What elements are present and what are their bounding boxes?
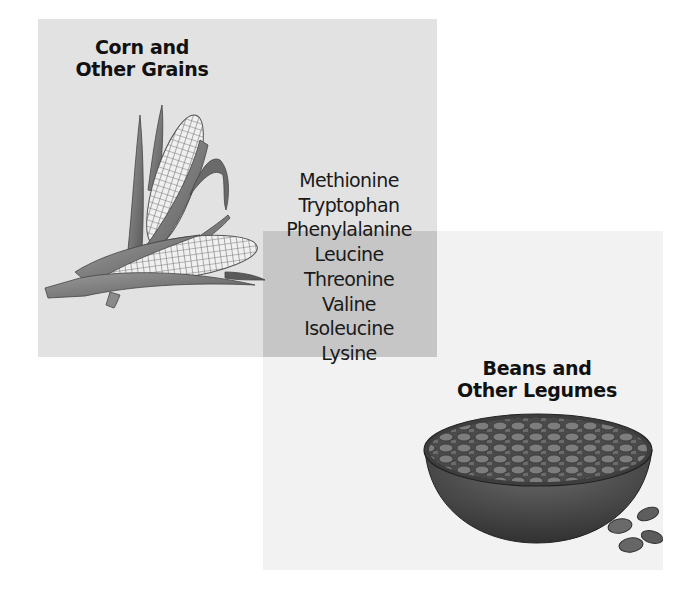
amino-acid-valine: Valine [249, 292, 449, 317]
bean-bowl-icon [420, 410, 665, 560]
legumes-title-line1: Beans and [437, 357, 637, 379]
grains-title: Corn and Other Grains [42, 36, 242, 80]
grains-title-line1: Corn and [42, 36, 242, 58]
amino-acid-leucine: Leucine [249, 242, 449, 267]
amino-acid-methionine: Methionine [249, 168, 449, 193]
amino-acid-tryptophan: Tryptophan [249, 193, 449, 218]
legumes-title-line2: Other Legumes [437, 379, 637, 401]
amino-acid-lysine: Lysine [249, 341, 449, 366]
legumes-title: Beans and Other Legumes [437, 357, 637, 401]
amino-acid-isoleucine: Isoleucine [249, 316, 449, 341]
amino-acid-list: Methionine Tryptophan Phenylalanine Leuc… [249, 168, 449, 366]
corn-icon [40, 100, 265, 310]
amino-acid-threonine: Threonine [249, 267, 449, 292]
amino-acid-phenylalanine: Phenylalanine [249, 217, 449, 242]
grains-title-line2: Other Grains [42, 58, 242, 80]
